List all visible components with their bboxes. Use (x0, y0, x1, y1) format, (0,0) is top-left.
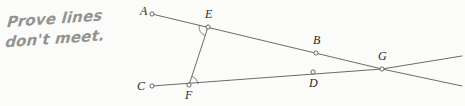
point-label-a: A (140, 4, 147, 19)
line-CFDG (152, 56, 462, 86)
point-marker-e (206, 25, 210, 29)
geometry-figure-page: Prove lines don't meet. AEBGCFD (0, 0, 465, 106)
point-label-c: C (137, 79, 145, 94)
diagram-canvas (0, 0, 465, 106)
point-marker-g (380, 67, 384, 71)
point-marker-f (187, 83, 191, 87)
point-label-g: G (378, 49, 387, 64)
point-label-b: B (313, 33, 320, 48)
line-AEBG (152, 14, 462, 86)
point-marker-c (150, 84, 154, 88)
point-marker-a (150, 12, 154, 16)
point-label-f: F (185, 88, 192, 103)
point-label-d: D (309, 76, 318, 91)
point-label-e: E (205, 7, 212, 22)
point-marker-b (314, 51, 318, 55)
point-markers (150, 12, 384, 88)
point-marker-d (311, 70, 315, 74)
